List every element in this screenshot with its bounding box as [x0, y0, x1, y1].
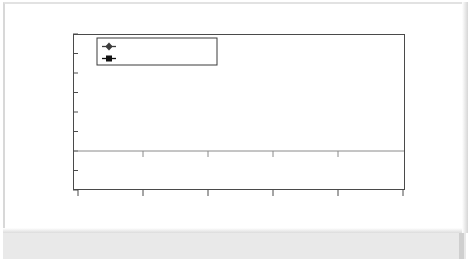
square-marker-icon — [106, 56, 112, 62]
page-right-shadow — [462, 2, 468, 233]
figure-page — [0, 0, 468, 259]
y-tick-marks — [73, 34, 78, 190]
chart-svg — [0, 0, 468, 232]
figure-area — [0, 0, 468, 232]
chart-legend — [97, 38, 217, 65]
x-inner-tick-marks — [143, 151, 338, 157]
x-tick-marks — [78, 190, 403, 196]
caption-right-edge — [459, 233, 464, 259]
figure-caption-band — [3, 233, 466, 259]
